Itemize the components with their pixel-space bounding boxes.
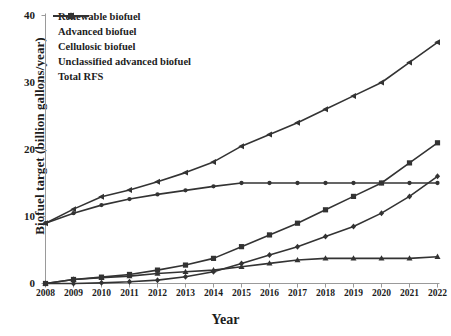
data-point-2017: [295, 244, 300, 250]
biofuel-target-line-chart: Biofuel target (billion gallons/year) Ye…: [0, 0, 451, 336]
data-point-2014: [210, 159, 216, 165]
data-point-2018: [323, 207, 328, 212]
data-point-2020: [379, 180, 384, 185]
data-point-2013: [182, 170, 188, 176]
data-point-2020: [378, 80, 384, 86]
data-point-2014: [211, 184, 215, 188]
data-point-2021: [407, 181, 411, 185]
data-point-2019: [350, 93, 356, 99]
data-point-2018: [323, 181, 327, 185]
data-point-2018: [323, 234, 328, 240]
legend-label: Unclassified advanced biofuel: [58, 56, 191, 67]
data-point-2015: [239, 181, 243, 185]
data-point-2011: [126, 187, 132, 193]
series-renewable-biofuel: [43, 181, 439, 225]
data-point-2012: [155, 277, 160, 283]
data-point-2022: [435, 140, 440, 145]
data-point-2013: [183, 274, 188, 280]
legend-item-4: Total RFS: [52, 69, 191, 84]
legend-item-2: Cellulosic biofuel: [52, 39, 191, 54]
data-point-2009: [71, 211, 75, 215]
data-point-2016: [267, 181, 271, 185]
data-point-2022: [435, 181, 439, 185]
data-point-2013: [183, 262, 188, 267]
data-point-2018: [322, 106, 328, 112]
series-line: [46, 183, 438, 223]
data-point-2016: [267, 252, 272, 258]
legend-item-1: Advanced biofuel: [52, 24, 191, 39]
data-point-2010: [98, 194, 104, 200]
data-point-2019: [351, 224, 356, 230]
data-point-2010: [99, 203, 103, 207]
legend-key-left-triangle-icon: [52, 9, 90, 23]
data-point-2017: [295, 221, 300, 226]
data-point-2021: [407, 160, 412, 165]
data-point-2010: [99, 280, 104, 286]
data-point-2017: [295, 181, 299, 185]
legend-label: Advanced biofuel: [58, 26, 136, 37]
chart-legend: Renewable biofuelAdvanced biofuelCellulo…: [52, 9, 191, 84]
data-point-2019: [351, 181, 355, 185]
legend-item-3: Unclassified advanced biofuel: [52, 54, 191, 69]
data-point-2016: [266, 131, 272, 137]
data-point-2013: [183, 188, 187, 192]
data-point-2014: [211, 256, 216, 261]
data-point-2011: [127, 197, 131, 201]
legend-label: Cellulosic biofuel: [58, 41, 135, 52]
data-point-2020: [379, 210, 384, 216]
legend-marker: [67, 13, 74, 20]
data-point-2015: [239, 244, 244, 249]
data-point-2012: [154, 179, 160, 185]
data-point-2016: [267, 232, 272, 237]
legend-label: Total RFS: [58, 71, 103, 82]
data-point-2019: [351, 194, 356, 199]
series-cellulosic-biofuel: [43, 173, 440, 286]
data-point-2017: [294, 120, 300, 126]
data-point-2012: [155, 192, 159, 196]
